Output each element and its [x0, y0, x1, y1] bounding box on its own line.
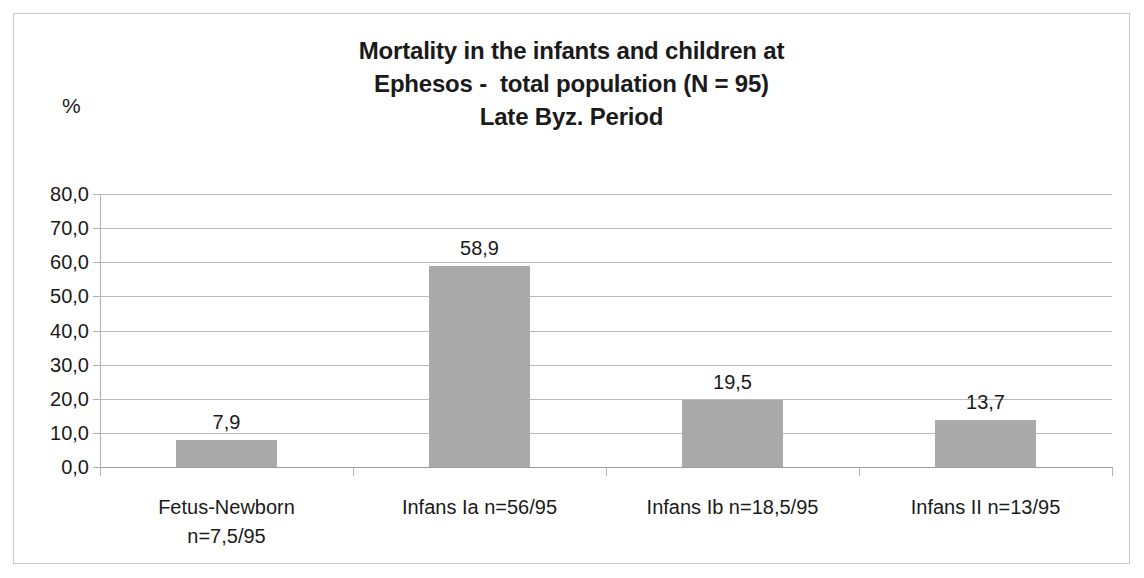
bar[interactable]: 19,5	[682, 400, 783, 467]
chart-title-line-2: Ephesos - total population (N = 95)	[14, 67, 1129, 100]
x-axis-tick	[606, 467, 607, 476]
y-axis-tick-label: 0,0	[61, 456, 89, 479]
x-axis-category-label: Infans Ia n=56/95	[353, 493, 606, 522]
y-axis-tick	[93, 262, 100, 263]
y-axis-tick	[93, 331, 100, 332]
chart-title-line-3: Late Byz. Period	[14, 100, 1129, 133]
bar[interactable]: 13,7	[935, 420, 1036, 467]
gridline	[100, 399, 1112, 400]
category-label-line: n=7,5/95	[100, 522, 353, 551]
y-axis-tick-label: 60,0	[50, 251, 89, 274]
x-axis-category-label: Fetus-Newbornn=7,5/95	[100, 493, 353, 551]
bar-value-label: 7,9	[213, 411, 241, 434]
category-label-line: Infans Ib n=18,5/95	[606, 493, 859, 522]
category-label-line: Infans II n=13/95	[859, 493, 1112, 522]
y-axis-tick	[93, 228, 100, 229]
y-axis-tick-label: 10,0	[50, 421, 89, 444]
bar[interactable]: 58,9	[429, 266, 530, 467]
chart-title: Mortality in the infants and children at…	[14, 34, 1129, 133]
y-axis-tick	[93, 296, 100, 297]
y-axis-tick	[93, 365, 100, 366]
y-axis-tick-label: 20,0	[50, 387, 89, 410]
y-axis-tick	[93, 194, 100, 195]
y-axis-tick-label: 80,0	[50, 183, 89, 206]
x-axis-category-labels: Fetus-Newbornn=7,5/95Infans Ia n=56/95In…	[100, 480, 1112, 560]
plot-area: 80,070,060,050,040,030,020,010,00,0 7,95…	[100, 194, 1112, 467]
y-axis-tick	[93, 467, 100, 468]
gridline	[100, 331, 1112, 332]
category-label-line: Infans Ia n=56/95	[353, 493, 606, 522]
gridline	[100, 228, 1112, 229]
gridline	[100, 365, 1112, 366]
gridline	[100, 296, 1112, 297]
bar-value-label: 58,9	[460, 237, 499, 260]
x-axis-category-label: Infans Ib n=18,5/95	[606, 493, 859, 522]
x-axis-tick	[859, 467, 860, 476]
y-axis-tick-label: 30,0	[50, 353, 89, 376]
chart-frame: Mortality in the infants and children at…	[13, 13, 1130, 564]
chart-title-line-1: Mortality in the infants and children at	[14, 34, 1129, 67]
x-axis-category-label: Infans II n=13/95	[859, 493, 1112, 522]
x-axis-tick	[353, 467, 354, 476]
y-axis-tick-label: 70,0	[50, 217, 89, 240]
y-axis-tick-label: 40,0	[50, 319, 89, 342]
gridline	[100, 194, 1112, 195]
y-axis-tick	[93, 399, 100, 400]
bar-value-label: 13,7	[966, 391, 1005, 414]
x-axis-tick	[100, 467, 101, 476]
y-axis-tick-label: 50,0	[50, 285, 89, 308]
y-axis-tick	[93, 433, 100, 434]
bar-value-label: 19,5	[713, 371, 752, 394]
gridline	[100, 262, 1112, 263]
x-axis-tick	[1112, 467, 1113, 476]
bar[interactable]: 7,9	[176, 440, 277, 467]
y-axis-unit-label: %	[62, 94, 81, 118]
category-label-line: Fetus-Newborn	[100, 493, 353, 522]
